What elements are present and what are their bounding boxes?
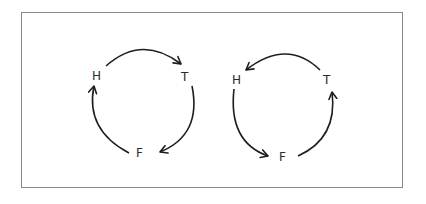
node-h-right: H bbox=[232, 73, 241, 87]
arrow-f-to-t bbox=[298, 92, 333, 156]
arrow-f-to-h bbox=[92, 86, 129, 153]
node-t-left: T bbox=[180, 70, 189, 84]
node-t-right: T bbox=[322, 73, 331, 87]
right-cycle: H T F bbox=[232, 54, 333, 164]
arrow-h-to-f bbox=[233, 89, 268, 156]
cycle-diagram: H T F H T F bbox=[0, 0, 426, 204]
arrow-t-to-f bbox=[160, 86, 194, 152]
arrow-h-to-t bbox=[106, 49, 181, 66]
node-f-left: F bbox=[136, 146, 143, 160]
left-cycle: H T F bbox=[92, 49, 194, 160]
node-f-right: F bbox=[279, 150, 286, 164]
node-h-left: H bbox=[92, 69, 101, 83]
arrow-t-to-h bbox=[246, 54, 320, 70]
